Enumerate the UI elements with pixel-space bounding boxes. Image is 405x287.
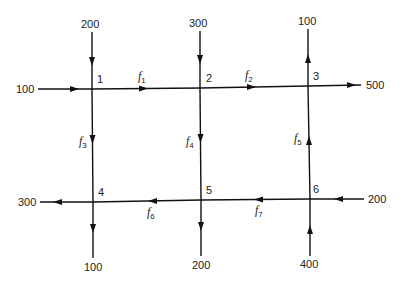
flow-label-f3: f3 xyxy=(79,134,87,150)
flow-label-f2: f2 xyxy=(245,68,253,84)
arrow-right-icon xyxy=(139,86,148,92)
flow-label-f7: f7 xyxy=(255,203,263,219)
node-label-3: 3 xyxy=(313,70,319,82)
flow-label-f6: f6 xyxy=(147,205,155,221)
edge-f6 xyxy=(93,200,201,202)
external-value-node5-bottom: 200 xyxy=(192,259,210,271)
flow-label-f4: f4 xyxy=(186,134,194,150)
arrow-down-icon xyxy=(89,57,95,66)
node-label-1: 1 xyxy=(97,73,103,85)
arrow-right-icon xyxy=(70,86,79,92)
external-value-node1-top: 200 xyxy=(81,18,99,30)
arrow-left-icon xyxy=(53,199,62,205)
arrow-down-icon xyxy=(90,224,96,233)
arrow-up-icon xyxy=(307,225,313,234)
external-value-node4-bottom: 100 xyxy=(84,261,102,273)
arrow-left-icon xyxy=(334,196,343,202)
arrow-right-icon xyxy=(347,82,356,88)
external-value-node2-top: 300 xyxy=(189,17,207,29)
external-value-node3-right: 500 xyxy=(366,79,384,91)
arrow-down-icon xyxy=(197,55,203,64)
arrow-left-icon xyxy=(148,198,157,204)
flow-label-f5: f5 xyxy=(294,131,302,147)
arrow-up-icon xyxy=(305,54,311,63)
flow-label-f1: f1 xyxy=(138,69,146,85)
edge-f3 xyxy=(92,89,93,202)
external-value-node6-right: 200 xyxy=(368,193,386,205)
edge-f4 xyxy=(200,88,201,200)
flow-network-diagram: 1 2 3 4 5 6 f1 f2 f3 f4 f5 f6 f7 200 100… xyxy=(0,0,405,287)
arrow-right-icon xyxy=(247,84,256,90)
external-value-node6-bottom: 400 xyxy=(300,258,318,270)
node-label-6: 6 xyxy=(313,183,319,195)
arrow-down-icon xyxy=(90,135,96,144)
arrow-down-icon xyxy=(198,134,204,143)
arrow-left-icon xyxy=(254,197,263,203)
node-label-5: 5 xyxy=(206,184,212,196)
external-value-node4-left: 300 xyxy=(18,196,36,208)
node-label-2: 2 xyxy=(206,72,212,84)
external-value-node1-left: 100 xyxy=(16,83,34,95)
external-value-node3-top: 100 xyxy=(298,15,316,27)
arrow-up-icon xyxy=(306,136,312,145)
arrow-down-icon xyxy=(198,222,204,231)
node-label-4: 4 xyxy=(98,186,104,198)
